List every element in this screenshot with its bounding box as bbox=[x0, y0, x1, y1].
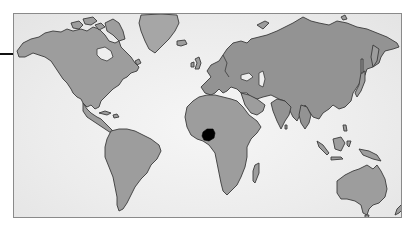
island-hispaniola bbox=[113, 114, 119, 118]
island-greenland bbox=[139, 14, 179, 53]
island-java bbox=[331, 157, 343, 160]
pointer-line bbox=[0, 53, 14, 55]
island-arctic-2 bbox=[83, 17, 97, 25]
world-map-frame: Nigeria bbox=[13, 13, 402, 218]
island-iceland bbox=[177, 40, 187, 46]
island-philippines bbox=[343, 125, 347, 131]
island-tasmania bbox=[365, 215, 369, 218]
island-borneo bbox=[333, 137, 345, 151]
island-sumatra bbox=[317, 141, 329, 155]
island-novaya-zemlya bbox=[257, 21, 269, 29]
island-ireland bbox=[191, 62, 194, 67]
island-arctic-1 bbox=[71, 21, 83, 29]
continent-south-america bbox=[105, 129, 161, 211]
island-severnaya bbox=[341, 15, 347, 20]
island-new-guinea bbox=[359, 149, 381, 161]
island-madagascar bbox=[253, 163, 259, 183]
island-uk bbox=[195, 57, 201, 69]
island-sulawesi bbox=[347, 141, 351, 147]
india bbox=[271, 99, 291, 129]
world-map bbox=[13, 13, 402, 218]
continent-australia bbox=[337, 165, 387, 215]
island-baffin bbox=[105, 19, 125, 41]
island-sakhalin bbox=[361, 59, 363, 73]
island-sri-lanka bbox=[285, 125, 287, 129]
island-new-zealand bbox=[395, 201, 402, 215]
island-cuba bbox=[99, 111, 111, 115]
